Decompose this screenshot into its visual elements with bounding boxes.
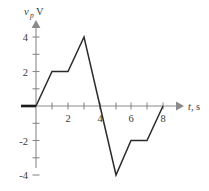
x-axis-label-unit: s: [196, 101, 200, 112]
y-axis-label-subscript: p: [29, 11, 34, 20]
x-axis-arrowhead: [176, 102, 184, 111]
x-tick-label-8: 8: [160, 113, 165, 124]
y-tick-label-4: 4: [23, 32, 29, 43]
y-axis-arrowhead: [32, 20, 41, 28]
x-axis-label: t , s: [188, 101, 200, 112]
voltage-waveform-figure: 2 4 6 8 4 2 -2 -4 v p V t , s: [0, 0, 209, 191]
x-tick-label-4: 4: [97, 113, 103, 124]
y-tick-label-neg2: -2: [19, 136, 28, 147]
y-axis-label-unit: V: [36, 6, 44, 17]
y-axis-label: v p V: [24, 6, 44, 20]
y-axis-label-symbol: v: [24, 6, 29, 17]
x-axis-label-separator: ,: [191, 101, 194, 112]
x-tick-label-6: 6: [128, 113, 133, 124]
y-tick-label-neg4: -4: [19, 170, 28, 181]
plot-canvas: 2 4 6 8 4 2 -2 -4 v p V t , s: [0, 0, 209, 191]
x-tick-label-2: 2: [65, 113, 70, 124]
y-tick-label-2: 2: [23, 67, 28, 78]
